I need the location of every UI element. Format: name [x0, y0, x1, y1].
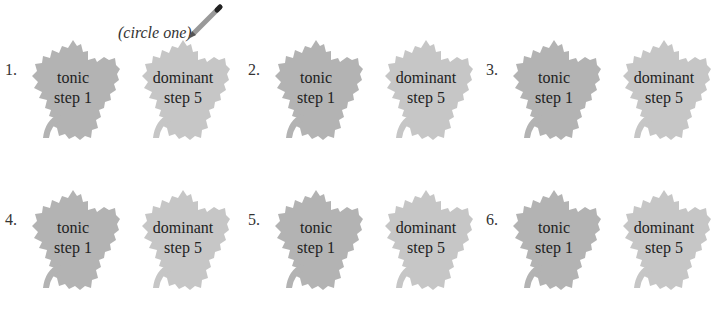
dominant-label: dominant: [135, 218, 231, 238]
tonic-choice[interactable]: tonic step 1: [268, 38, 364, 140]
tonic-step: step 1: [268, 88, 364, 108]
item-number: 1.: [5, 61, 17, 79]
dominant-step: step 5: [378, 88, 474, 108]
exercise-item-6: 6. tonic step 1 d: [486, 188, 715, 298]
tonic-step: step 1: [506, 88, 602, 108]
tonic-step: step 1: [506, 238, 602, 258]
tonic-step: step 1: [268, 238, 364, 258]
exercise-item-3: 3. tonic step 1 d: [486, 38, 715, 148]
dominant-choice[interactable]: dominant step 5: [616, 38, 712, 140]
dominant-label: dominant: [135, 68, 231, 88]
tonic-label: tonic: [25, 68, 121, 88]
item-number: 5.: [248, 211, 260, 229]
dominant-step: step 5: [135, 238, 231, 258]
dominant-choice[interactable]: dominant step 5: [616, 188, 712, 290]
tonic-choice[interactable]: tonic step 1: [25, 188, 121, 290]
exercise-item-2: 2. tonic step 1 d: [248, 38, 478, 148]
item-number: 3.: [486, 61, 498, 79]
tonic-label: tonic: [25, 218, 121, 238]
exercise-item-5: 5. tonic step 1 d: [248, 188, 478, 298]
item-number: 2.: [248, 61, 260, 79]
dominant-label: dominant: [378, 68, 474, 88]
exercise-item-4: 4. tonic step 1 d: [5, 188, 235, 298]
dominant-label: dominant: [616, 218, 712, 238]
tonic-choice[interactable]: tonic step 1: [268, 188, 364, 290]
dominant-label: dominant: [616, 68, 712, 88]
item-number: 6.: [486, 211, 498, 229]
dominant-step: step 5: [378, 238, 474, 258]
dominant-choice[interactable]: dominant step 5: [378, 188, 474, 290]
tonic-step: step 1: [25, 238, 121, 258]
dominant-choice[interactable]: dominant step 5: [135, 38, 231, 140]
pencil-icon: [182, 3, 226, 43]
tonic-choice[interactable]: tonic step 1: [506, 38, 602, 140]
tonic-step: step 1: [25, 88, 121, 108]
tonic-choice[interactable]: tonic step 1: [506, 188, 602, 290]
dominant-choice[interactable]: dominant step 5: [378, 38, 474, 140]
dominant-choice[interactable]: dominant step 5: [135, 188, 231, 290]
exercise-item-1: 1. tonic step 1 d: [5, 38, 235, 148]
tonic-label: tonic: [506, 218, 602, 238]
dominant-label: dominant: [378, 218, 474, 238]
dominant-step: step 5: [616, 88, 712, 108]
tonic-label: tonic: [268, 68, 364, 88]
item-number: 4.: [5, 211, 17, 229]
tonic-label: tonic: [268, 218, 364, 238]
tonic-choice[interactable]: tonic step 1: [25, 38, 121, 140]
dominant-step: step 5: [135, 88, 231, 108]
dominant-step: step 5: [616, 238, 712, 258]
tonic-label: tonic: [506, 68, 602, 88]
